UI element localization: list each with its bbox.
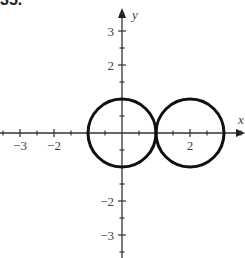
x-tick-label: −2 bbox=[47, 138, 61, 153]
y-axis-label: y bbox=[130, 7, 138, 22]
plot: −3−2232−2−3 x y bbox=[0, 0, 245, 258]
x-tick-label: 2 bbox=[187, 138, 194, 153]
x-axis-label: x bbox=[237, 112, 244, 127]
y-tick-label: 2 bbox=[108, 58, 115, 73]
y-tick-label: 3 bbox=[108, 24, 115, 39]
x-tick-label: −3 bbox=[13, 138, 27, 153]
y-axis-arrow-icon bbox=[118, 8, 126, 18]
y-tick-label: −2 bbox=[100, 194, 114, 209]
y-tick-label: −3 bbox=[100, 228, 114, 243]
axes bbox=[0, 16, 238, 258]
